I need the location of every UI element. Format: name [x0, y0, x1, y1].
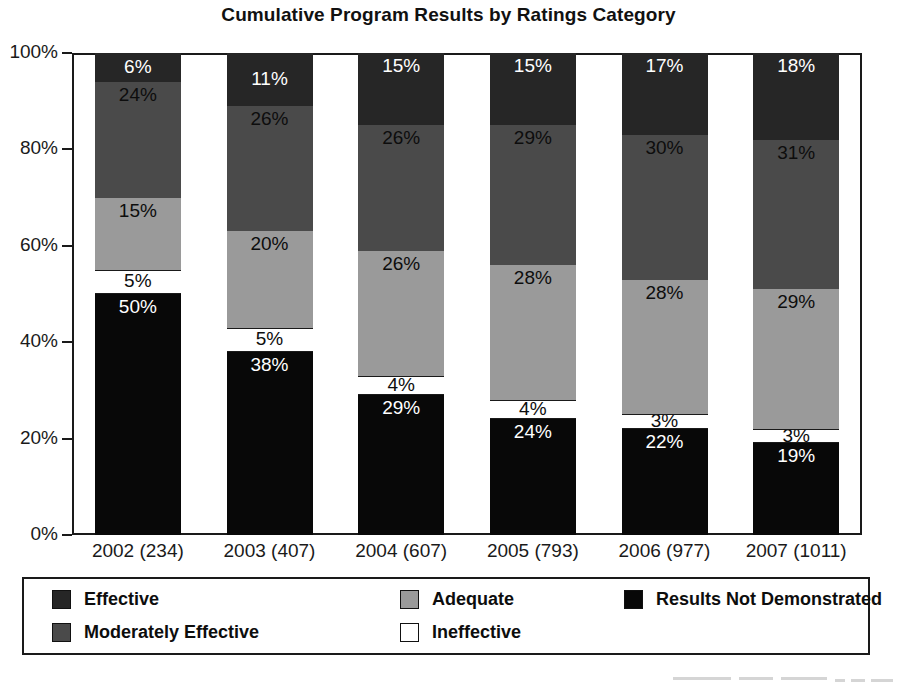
bar-segment[interactable]: 29% [358, 395, 444, 535]
legend-item[interactable]: Adequate [400, 589, 514, 610]
bar-segment-value-label: 20% [250, 234, 288, 253]
bar-stack: 15%29%28%4%24% [490, 53, 576, 535]
bar-segment-value-label: 29% [382, 398, 420, 417]
bar-segment-value-label: 29% [514, 128, 552, 147]
bar-segment[interactable]: 18% [753, 53, 839, 140]
bar-column[interactable]: 17%30%28%3%22% [622, 53, 708, 535]
bar-stack: 17%30%28%3%22% [622, 53, 708, 535]
bar-segment-value-label: 50% [119, 297, 157, 316]
bar-segment-value-label: 30% [645, 138, 683, 157]
bar-stack: 11%26%20%5%38% [227, 53, 313, 535]
y-axis-tick-label: 20% [20, 427, 58, 449]
y-axis-tick-mark [62, 534, 72, 536]
bar-segment[interactable]: 29% [490, 125, 576, 265]
bar-segment[interactable]: 17% [622, 53, 708, 135]
bar-segment[interactable]: 30% [622, 135, 708, 280]
legend-label: Adequate [432, 589, 514, 610]
y-axis-tick-label: 60% [20, 234, 58, 256]
scan-artifact [657, 666, 897, 686]
legend-swatch-icon [400, 590, 419, 609]
legend-swatch-icon [52, 590, 71, 609]
bar-segment-value-label: 26% [382, 254, 420, 273]
chart-title: Cumulative Program Results by Ratings Ca… [0, 4, 897, 26]
y-axis-tick-label: 80% [20, 137, 58, 159]
bar-segment-value-label: 18% [777, 56, 815, 75]
bar-segment-value-label: 24% [119, 85, 157, 104]
bar-segment-value-label: 24% [514, 422, 552, 441]
x-axis-label: 2007 (1011) [730, 540, 862, 562]
legend-label: Moderately Effective [84, 622, 259, 643]
bar-segment-value-label: 3% [651, 414, 678, 428]
bar-segment-value-label: 38% [250, 355, 288, 374]
bar-column[interactable]: 15%29%28%4%24% [490, 53, 576, 535]
bar-segment-value-label: 4% [387, 376, 414, 394]
bar-segment-value-label: 26% [382, 128, 420, 147]
bar-column[interactable]: 15%26%26%4%29% [358, 53, 444, 535]
bar-segment-value-label: 28% [645, 283, 683, 302]
bar-segment-value-label: 5% [256, 329, 283, 348]
bar-segment-value-label: 4% [519, 400, 546, 418]
bar-segment[interactable]: 3% [753, 429, 839, 443]
y-axis-tick-mark [62, 52, 72, 54]
bar-segment[interactable]: 5% [95, 270, 181, 294]
bar-segment[interactable]: 5% [227, 328, 313, 352]
bar-segment[interactable]: 28% [490, 265, 576, 400]
x-axis-label: 2006 (977) [599, 540, 731, 562]
legend-item[interactable]: Results Not Demonstrated [624, 589, 882, 610]
bar-segment[interactable]: 31% [753, 140, 839, 289]
legend-swatch-icon [52, 623, 71, 642]
bar-stack: 6%24%15%5%50% [95, 53, 181, 535]
bar-segment[interactable]: 38% [227, 352, 313, 535]
x-axis-label: 2003 (407) [204, 540, 336, 562]
bar-segment[interactable]: 15% [490, 53, 576, 125]
bar-segment[interactable]: 24% [490, 419, 576, 535]
legend-label: Results Not Demonstrated [656, 589, 882, 610]
bar-segment[interactable]: 4% [490, 400, 576, 419]
bar-segment[interactable]: 11% [227, 53, 313, 106]
bar-segment[interactable]: 15% [95, 198, 181, 270]
legend: EffectiveModerately EffectiveAdequateIne… [22, 577, 870, 655]
bar-segment-value-label: 19% [777, 446, 815, 465]
legend-item[interactable]: Moderately Effective [52, 622, 259, 643]
bar-segment[interactable]: 19% [753, 443, 839, 535]
bar-column[interactable]: 6%24%15%5%50% [95, 53, 181, 535]
bar-segment[interactable]: 22% [622, 429, 708, 535]
bar-column[interactable]: 11%26%20%5%38% [227, 53, 313, 535]
x-axis-label: 2002 (234) [72, 540, 204, 562]
bar-segment-value-label: 26% [250, 109, 288, 128]
bar-segment[interactable]: 15% [358, 53, 444, 125]
x-axis-labels: 2002 (234)2003 (407)2004 (607)2005 (793)… [72, 540, 862, 568]
y-axis-tick-mark [62, 148, 72, 150]
bar-column[interactable]: 18%31%29%3%19% [753, 53, 839, 535]
legend-item[interactable]: Effective [52, 589, 159, 610]
y-axis-tick-mark [62, 341, 72, 343]
legend-swatch-icon [400, 623, 419, 642]
y-axis-tick-label: 100% [9, 41, 58, 63]
bar-segment[interactable]: 26% [227, 106, 313, 231]
bar-segment[interactable]: 26% [358, 251, 444, 376]
bar-segment[interactable]: 4% [358, 376, 444, 395]
bar-stack: 18%31%29%3%19% [753, 53, 839, 535]
bar-segment[interactable]: 6% [95, 53, 181, 82]
y-axis-tick-label: 40% [20, 330, 58, 352]
bar-segment-value-label: 28% [514, 268, 552, 287]
bar-segment-value-label: 15% [119, 201, 157, 220]
bar-segment[interactable]: 26% [358, 125, 444, 250]
legend-label: Ineffective [432, 622, 521, 643]
bar-segment-value-label: 15% [514, 56, 552, 75]
bar-segment[interactable]: 3% [622, 414, 708, 428]
y-axis-tick-mark [62, 438, 72, 440]
y-axis-tick-label: 0% [31, 523, 58, 545]
bar-segment[interactable]: 28% [622, 280, 708, 415]
bar-segment[interactable]: 29% [753, 289, 839, 429]
bar-segment[interactable]: 20% [227, 231, 313, 327]
bar-segment[interactable]: 24% [95, 82, 181, 198]
bar-segment-value-label: 6% [124, 57, 151, 76]
bar-segment-value-label: 15% [382, 56, 420, 75]
x-axis-label: 2004 (607) [335, 540, 467, 562]
bar-segment-value-label: 5% [124, 271, 151, 290]
bar-segment-value-label: 17% [645, 56, 683, 75]
legend-swatch-icon [624, 590, 643, 609]
bar-segment[interactable]: 50% [95, 294, 181, 535]
legend-item[interactable]: Ineffective [400, 622, 521, 643]
